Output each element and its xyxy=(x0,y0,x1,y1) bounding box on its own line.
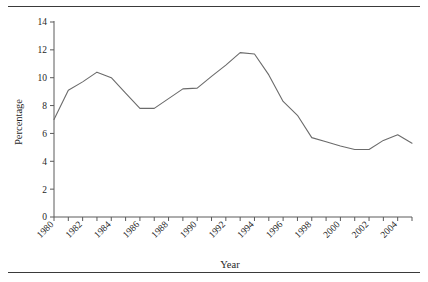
x-tick-label: 1990 xyxy=(178,219,199,240)
x-tick-label: 1982 xyxy=(64,219,85,240)
x-tick-label: 1980 xyxy=(35,219,56,240)
y-tick-label: 12 xyxy=(38,45,48,55)
y-axis-ticks xyxy=(50,22,54,217)
y-axis-group: 02468101214 xyxy=(38,17,55,222)
x-tick-label: 1986 xyxy=(121,219,142,240)
x-tick-label: 1988 xyxy=(149,219,170,240)
chart-plot-area: 02468101214 1980198219841986198819901992… xyxy=(0,0,428,282)
y-axis-title: Percentage xyxy=(13,99,24,145)
x-tick-label: 1994 xyxy=(235,219,256,240)
x-axis-title: Year xyxy=(220,259,240,270)
data-series-line xyxy=(54,53,412,150)
x-tick-label: 1998 xyxy=(293,219,314,240)
x-axis-group: 1980198219841986198819901992199419961998… xyxy=(35,217,412,240)
x-axis-ticks xyxy=(54,217,412,221)
figure-container: 02468101214 1980198219841986198819901992… xyxy=(0,0,428,282)
y-tick-label: 14 xyxy=(38,17,48,27)
x-tick-label: 2002 xyxy=(350,219,371,240)
line-chart-svg: 02468101214 1980198219841986198819901992… xyxy=(0,0,428,282)
y-tick-label: 10 xyxy=(38,73,48,83)
y-tick-label: 6 xyxy=(42,129,47,139)
x-tick-label: 2000 xyxy=(321,219,342,240)
y-axis-tick-labels: 02468101214 xyxy=(38,17,48,222)
x-tick-label: 1984 xyxy=(92,219,113,240)
y-tick-label: 2 xyxy=(42,185,47,195)
y-tick-label: 4 xyxy=(42,157,47,167)
x-axis-tick-labels: 1980198219841986198819901992199419961998… xyxy=(35,219,399,240)
x-tick-label: 1992 xyxy=(207,219,228,240)
x-tick-label: 1996 xyxy=(264,219,285,240)
y-tick-label: 8 xyxy=(42,101,47,111)
x-tick-label: 2004 xyxy=(379,219,400,240)
